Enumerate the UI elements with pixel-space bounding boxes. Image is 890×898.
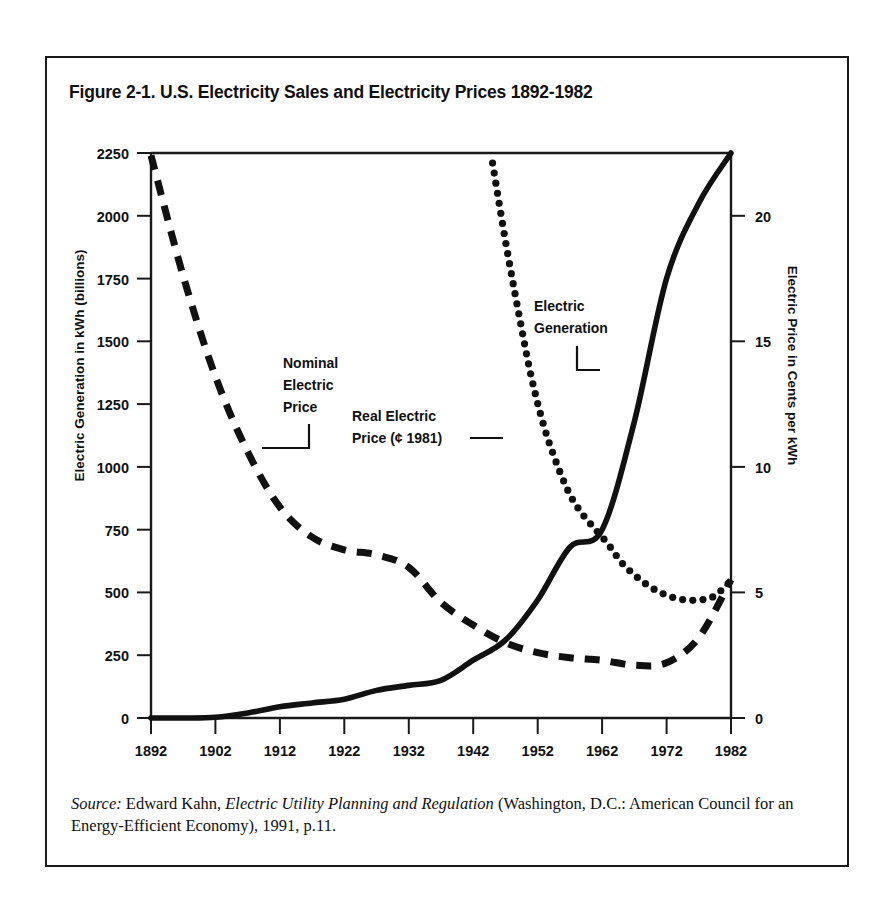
real-price-dot: [502, 240, 509, 247]
real-price-dot: [523, 350, 530, 357]
real-price-dot: [669, 594, 676, 601]
real-price-dot: [679, 596, 686, 603]
real-price-dot: [725, 580, 732, 587]
real-price-dot: [607, 544, 614, 551]
y-left-tick-500: 500: [105, 585, 129, 601]
y-axis-right-ticks: 0 5 10 15 20: [731, 209, 771, 727]
real-price-dot: [600, 536, 607, 543]
real-price-dot: [613, 552, 620, 559]
real-price-dot: [587, 520, 594, 527]
real-price-dot: [556, 468, 563, 475]
real-price-dot: [499, 220, 506, 227]
x-tick-1902: 1902: [199, 743, 231, 759]
real-price-dot: [564, 487, 571, 494]
real-price-dot: [626, 567, 633, 574]
y-left-tick-750: 750: [105, 523, 129, 539]
real-price-dot: [642, 580, 649, 587]
x-tick-1972: 1972: [650, 743, 682, 759]
real-price-dot: [546, 439, 553, 446]
y-right-tick-5: 5: [755, 585, 763, 601]
real-price-dot: [519, 330, 526, 337]
y-left-tick-0: 0: [121, 711, 129, 727]
y-left-tick-1500: 1500: [97, 334, 129, 350]
real-price-dot: [506, 260, 513, 267]
y-left-tick-250: 250: [105, 648, 129, 664]
real-price-dot: [660, 590, 667, 597]
real-price-dot: [501, 230, 508, 237]
figure-panel: Figure 2-1. U.S. Electricity Sales and E…: [45, 56, 849, 867]
real-price-dot: [534, 400, 541, 407]
y-right-tick-10: 10: [755, 460, 771, 476]
real-price-dot: [494, 190, 501, 197]
annotation-nominal-line3: Price: [283, 399, 317, 415]
annotation-generation-line2: Generation: [534, 320, 608, 336]
annotation-real-line2: Price (¢ 1981): [352, 430, 442, 446]
real-price-dot: [634, 574, 641, 581]
source-title: Electric Utility Planning and Regulation: [225, 794, 494, 813]
real-price-dot: [513, 300, 520, 307]
y-left-tick-2250: 2250: [97, 146, 129, 162]
real-price-dot: [529, 380, 536, 387]
real-price-dot: [594, 528, 601, 535]
real-price-dot: [491, 170, 498, 177]
source-author: Edward Kahn,: [126, 794, 221, 813]
annotation-nominal-line2: Electric: [283, 377, 334, 393]
x-tick-1962: 1962: [586, 743, 618, 759]
real-price-dot: [508, 270, 515, 277]
y-axis-left-ticks: 2250 2000 1750 1500 1250 1000 750 500 25…: [97, 146, 151, 727]
real-price-dot: [560, 477, 567, 484]
annotation-generation-line1: Electric: [534, 298, 585, 314]
x-tick-1922: 1922: [328, 743, 360, 759]
real-price-dot: [525, 360, 532, 367]
chart-svg: 2250 2000 1750 1500 1250 1000 750 500 25…: [47, 58, 851, 869]
real-price-dot: [527, 370, 534, 377]
real-price-dot: [569, 496, 576, 503]
real-price-dot: [510, 280, 517, 287]
annotation-real-electric-price: Real Electric Price (¢ 1981): [352, 408, 503, 446]
real-price-dot: [511, 290, 518, 297]
real-price-dot: [504, 250, 511, 257]
y-right-tick-0: 0: [755, 711, 763, 727]
real-price-dot: [717, 587, 724, 594]
annotation-real-line1: Real Electric: [352, 408, 436, 424]
x-tick-1952: 1952: [522, 743, 554, 759]
real-price-dot: [515, 310, 522, 317]
x-tick-1942: 1942: [457, 743, 489, 759]
leader-line-generation: [577, 346, 600, 370]
real-price-dot: [537, 410, 544, 417]
real-price-dot: [709, 593, 716, 600]
real-price-dot: [497, 210, 504, 217]
annotation-nominal-electric-price: Nominal Electric Price: [262, 355, 338, 448]
real-price-dot: [492, 180, 499, 187]
series-real-electric-price: [489, 159, 732, 603]
real-price-dot: [517, 320, 524, 327]
x-tick-1912: 1912: [264, 743, 296, 759]
annotation-electric-generation: Electric Generation: [534, 298, 608, 370]
real-price-dot: [521, 340, 528, 347]
source-label: Source:: [71, 794, 122, 813]
leader-line-nominal-price: [262, 424, 309, 448]
real-price-dot: [619, 560, 626, 567]
real-price-dot: [489, 159, 496, 166]
real-price-dot: [574, 504, 581, 511]
real-price-dot: [552, 458, 559, 465]
real-price-dot: [542, 429, 549, 436]
real-price-dot: [549, 449, 556, 456]
y-left-tick-1000: 1000: [97, 460, 129, 476]
plot-area: 2250 2000 1750 1500 1250 1000 750 500 25…: [47, 58, 851, 869]
y-right-tick-20: 20: [755, 209, 771, 225]
annotation-nominal-line1: Nominal: [283, 355, 338, 371]
x-tick-1982: 1982: [715, 743, 747, 759]
x-tick-1932: 1932: [393, 743, 425, 759]
series-nominal-electric-price: [151, 156, 731, 666]
real-price-dot: [699, 596, 706, 603]
x-axis-ticks: 1892 1902 1912 1922 1932 1942 1952 1962 …: [135, 718, 747, 759]
y-left-tick-1250: 1250: [97, 397, 129, 413]
real-price-dot: [650, 586, 657, 593]
x-tick-1892: 1892: [135, 743, 167, 759]
real-price-dot: [532, 390, 539, 397]
y-left-tick-1750: 1750: [97, 272, 129, 288]
y-left-tick-2000: 2000: [97, 209, 129, 225]
source-note: Source: Edward Kahn, Electric Utility Pl…: [71, 793, 827, 837]
real-price-dot: [689, 597, 696, 604]
